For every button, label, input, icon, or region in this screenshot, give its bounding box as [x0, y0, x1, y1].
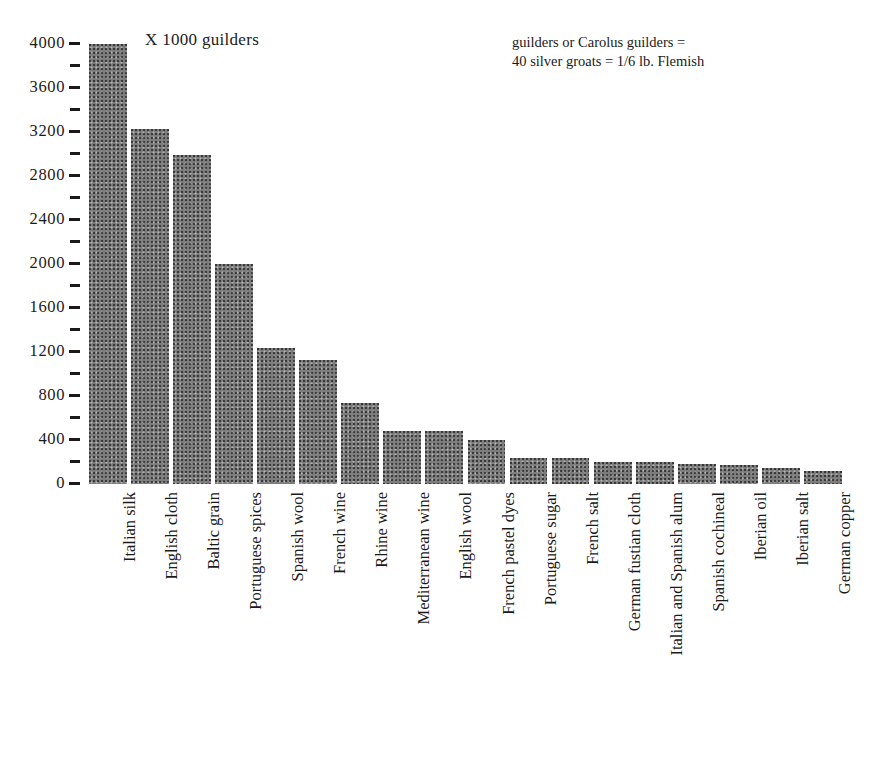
- tick-mark: [69, 306, 80, 309]
- bar: [89, 44, 127, 484]
- bar: [636, 462, 674, 484]
- plot-area: [89, 44, 846, 484]
- y-axis-tick-label: 3600: [30, 77, 65, 97]
- x-axis-label: German copper: [831, 492, 848, 594]
- bar: [468, 440, 506, 484]
- bar: [552, 458, 590, 484]
- bar: [720, 465, 758, 484]
- tick-mark: [69, 482, 80, 485]
- y-axis-tick-label: 2400: [30, 209, 65, 229]
- bar: [510, 458, 548, 484]
- x-axis-label: French salt: [579, 492, 596, 565]
- y-axis-tick-label: 3200: [30, 121, 65, 141]
- x-axis-label: German fustian cloth: [621, 492, 638, 631]
- x-axis-label: Spanish wool: [284, 492, 301, 581]
- x-axis-label: Portuguese spices: [242, 492, 259, 610]
- x-axis-label: Italian silk: [116, 492, 133, 562]
- tick-mark: [70, 328, 80, 331]
- x-axis-label: English cloth: [158, 492, 175, 580]
- x-axis-label: Mediterranean wine: [410, 492, 427, 624]
- tick-mark: [69, 218, 80, 221]
- y-axis: 040080012001600200024002800320036004000: [0, 30, 89, 500]
- y-axis-tick-label: 2800: [30, 165, 65, 185]
- tick-mark: [70, 64, 80, 67]
- y-axis-tick-label: 0: [56, 473, 65, 493]
- tick-mark: [70, 372, 80, 375]
- x-axis-label-text: Italian and Spanish alum: [669, 492, 686, 656]
- bar: [594, 462, 632, 484]
- tick-mark: [69, 130, 80, 133]
- x-axis-label-text: Portuguese spices: [248, 492, 265, 610]
- x-axis-label: Baltic grain: [200, 492, 217, 569]
- x-axis-label-text: Rhine wine: [374, 492, 391, 568]
- bar: [762, 468, 800, 485]
- x-axis-label-text: Portuguese sugar: [543, 492, 560, 605]
- bar: [425, 431, 463, 484]
- x-axis-label-text: Spanish cochineal: [711, 492, 728, 612]
- x-axis-label-text: Iberian salt: [795, 492, 812, 566]
- x-axis-label: English wool: [452, 492, 469, 580]
- tick-mark: [70, 108, 80, 111]
- y-axis-tick-label: 1200: [30, 341, 65, 361]
- x-axis-label-text: German copper: [837, 492, 854, 594]
- bar: [173, 155, 211, 484]
- y-axis-tick-label: 4000: [30, 33, 65, 53]
- y-axis-tick-label: 400: [38, 429, 65, 449]
- bar: [678, 464, 716, 484]
- x-axis-label-text: German fustian cloth: [627, 492, 644, 631]
- tick-mark: [69, 262, 80, 265]
- tick-mark: [70, 240, 80, 243]
- x-axis-label-text: French salt: [585, 492, 602, 565]
- y-axis-tick-label: 1600: [30, 297, 65, 317]
- bar: [215, 264, 253, 484]
- tick-mark: [70, 284, 80, 287]
- x-axis-label-text: French wine: [332, 492, 349, 574]
- y-axis-tick-label: 800: [38, 385, 65, 405]
- x-axis-label-text: French pastel dyes: [501, 492, 518, 615]
- x-axis-label-text: Mediterranean wine: [416, 492, 433, 624]
- bar: [341, 403, 379, 484]
- bar: [131, 129, 169, 484]
- x-axis-label-text: Italian silk: [122, 492, 139, 562]
- bar: [804, 471, 842, 484]
- tick-mark: [70, 196, 80, 199]
- x-axis-label: Iberian salt: [789, 492, 806, 566]
- tick-mark: [69, 174, 80, 177]
- tick-mark: [69, 438, 80, 441]
- tick-mark: [69, 394, 80, 397]
- x-axis-label-text: Spanish wool: [290, 492, 307, 581]
- bar: [257, 348, 295, 484]
- x-axis-label: Italian and Spanish alum: [663, 492, 680, 656]
- tick-mark: [69, 350, 80, 353]
- x-axis-label-text: English wool: [458, 492, 475, 580]
- x-axis-label: Portuguese sugar: [537, 492, 554, 605]
- x-axis-label: Spanish cochineal: [705, 492, 722, 612]
- bar: [383, 431, 421, 484]
- x-axis-label-text: English cloth: [164, 492, 181, 580]
- x-axis-label: Iberian oil: [747, 492, 764, 560]
- bar-chart-figure: X 1000 guilders guilders or Carolus guil…: [0, 0, 880, 779]
- tick-mark: [69, 86, 80, 89]
- y-axis-tick-label: 2000: [30, 253, 65, 273]
- x-axis-label: French pastel dyes: [495, 492, 512, 615]
- x-axis-labels: Italian silkEnglish clothBaltic grainPor…: [89, 492, 846, 732]
- bar: [299, 360, 337, 484]
- x-axis-label-text: Iberian oil: [753, 492, 770, 560]
- tick-mark: [70, 460, 80, 463]
- x-axis-label-text: Baltic grain: [206, 492, 223, 569]
- x-axis-label: Rhine wine: [368, 492, 385, 568]
- tick-mark: [70, 416, 80, 419]
- x-axis-label: French wine: [326, 492, 343, 574]
- tick-mark: [69, 42, 80, 45]
- tick-mark: [70, 152, 80, 155]
